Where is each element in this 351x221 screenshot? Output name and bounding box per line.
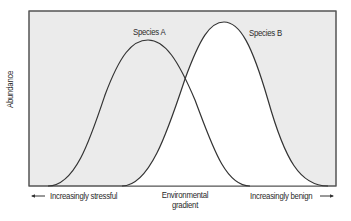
species-abundance-diagram	[0, 0, 351, 221]
species-b-label: Species B	[249, 27, 282, 38]
right-arrow-icon	[320, 194, 334, 197]
x-right-label: Increasingly benign	[250, 190, 312, 201]
y-axis-label: Abundance	[4, 71, 15, 108]
left-arrow-icon	[31, 194, 45, 197]
species-a-label: Species A	[133, 26, 165, 37]
x-axis-title-line2: gradient	[148, 200, 222, 210]
x-axis-title: Environmental gradient	[148, 190, 222, 210]
x-left-label: Increasingly stressful	[50, 190, 117, 201]
